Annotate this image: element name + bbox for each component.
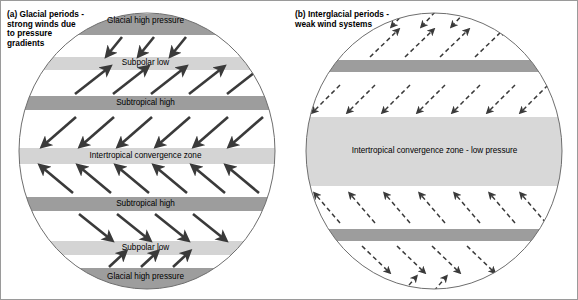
panel-interglacial-periods: (b) Interglacial periods - weak wind sys… <box>290 1 578 300</box>
panel-glacial-periods: (a) Glacial periods - strong winds due t… <box>1 1 290 300</box>
band-subtropical-high-north <box>1 96 290 110</box>
band-subtropical-high-south <box>1 197 290 211</box>
pressure-bands-interglacial <box>290 60 578 241</box>
panel-b-caption: (b) Interglacial periods - weak wind sys… <box>295 10 389 29</box>
band-subpolar-low-south <box>1 241 290 255</box>
band-high-pressure-south <box>290 229 578 241</box>
band-glacial-high-south <box>1 268 290 290</box>
band-itcz <box>1 148 290 164</box>
band-itcz-low-pressure <box>290 117 578 186</box>
figure-canvas: (a) Glacial periods - strong winds due t… <box>0 0 578 300</box>
pressure-bands-glacial <box>1 14 290 290</box>
panel-a-caption: (a) Glacial periods - strong winds due t… <box>7 10 84 48</box>
globe-diagram-interglacial <box>290 1 578 300</box>
